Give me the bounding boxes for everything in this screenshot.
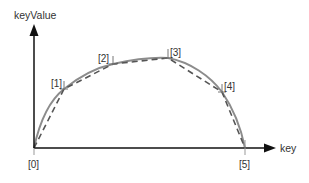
point-label-1: [1]: [51, 78, 62, 89]
y-axis-arrow-icon: [30, 24, 39, 36]
point-label-5: [5]: [239, 159, 250, 170]
y-axis-label: keyValue: [14, 9, 57, 21]
smooth-curve: [34, 58, 245, 148]
x-axis-arrow-icon: [264, 144, 276, 153]
point-label-4: [4]: [224, 81, 235, 92]
point-label-3: [3]: [170, 47, 181, 58]
linear-dashed-curve: [34, 58, 245, 148]
x-axis-label: key: [280, 142, 297, 154]
keyframe-curve-diagram: keyValue key [0] [1] [2] [3] [4] [5]: [0, 0, 309, 183]
point-label-0: [0]: [28, 159, 39, 170]
point-label-2: [2]: [98, 53, 109, 64]
